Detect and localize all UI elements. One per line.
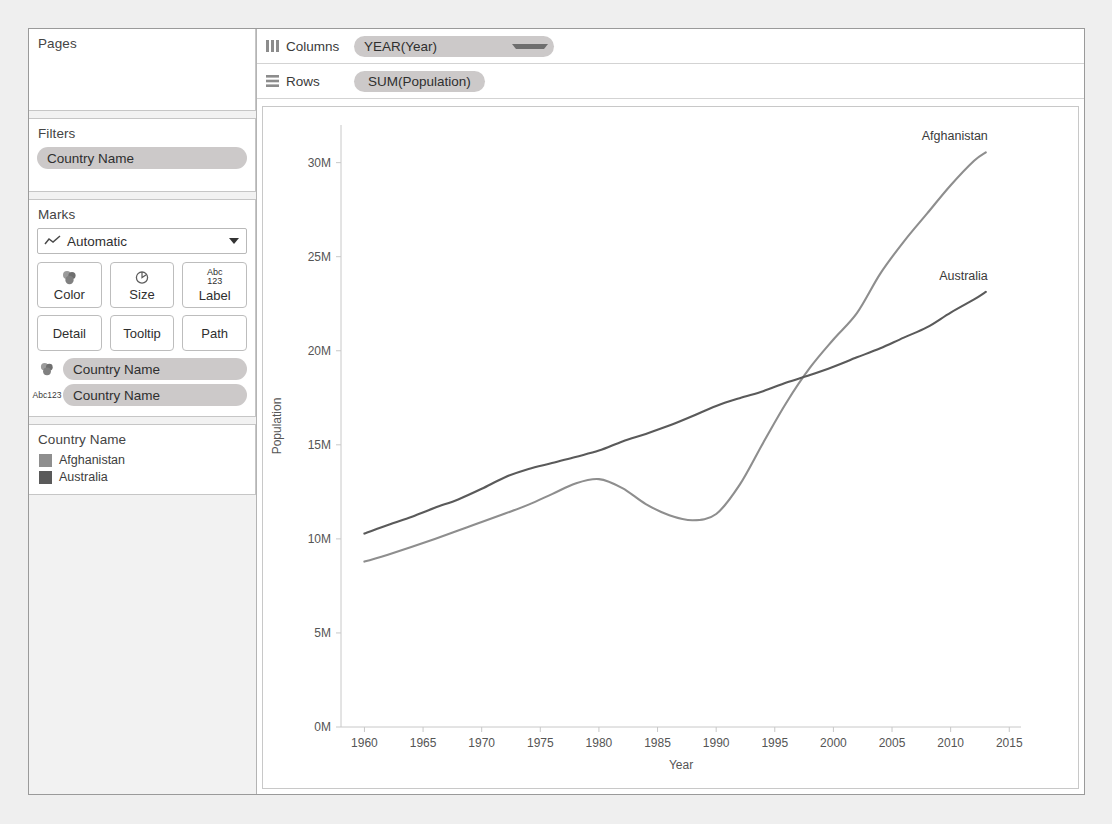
y-tick-label: 0M xyxy=(314,720,331,734)
series-line-australia[interactable] xyxy=(364,292,985,534)
pages-card[interactable]: Pages xyxy=(29,29,256,111)
filter-pill-label: Country Name xyxy=(47,151,134,166)
x-tick-label: 2005 xyxy=(879,736,906,750)
tableau-worksheet: Pages Filters Country Name Marks Automat… xyxy=(28,28,1085,795)
y-tick-label: 15M xyxy=(308,438,331,452)
marks-pill-label-label: Country Name xyxy=(73,388,160,403)
chevron-down-icon[interactable] xyxy=(512,44,548,49)
rows-icon xyxy=(266,75,279,87)
legend-title: Country Name xyxy=(38,432,247,447)
marks-tooltip-label: Tooltip xyxy=(123,326,161,341)
marks-title: Marks xyxy=(38,207,247,222)
color-palette-icon xyxy=(61,269,78,286)
num-text: 123 xyxy=(207,276,222,286)
pages-title: Pages xyxy=(38,36,247,51)
line-chart[interactable]: 0M5M10M15M20M25M30M196019651970197519801… xyxy=(263,107,1079,787)
x-tick-label: 1965 xyxy=(410,736,437,750)
chart-canvas[interactable]: 0M5M10M15M20M25M30M196019651970197519801… xyxy=(262,106,1079,789)
rows-shelf-label-group: Rows xyxy=(266,74,354,89)
abc-123-icon: Abc 123 xyxy=(37,391,57,400)
columns-shelf-label-group: Columns xyxy=(266,39,354,54)
y-tick-label: 25M xyxy=(308,250,331,264)
x-tick-label: 1975 xyxy=(527,736,554,750)
color-legend-card: Country Name Afghanistan Australia xyxy=(29,424,256,495)
x-tick-label: 1970 xyxy=(468,736,495,750)
columns-shelf[interactable]: Columns YEAR(Year) xyxy=(257,29,1084,64)
marks-label-label: Label xyxy=(199,288,231,303)
mark-buttons-row-2: Detail Tooltip Path xyxy=(37,315,247,351)
x-tick-label: 2000 xyxy=(820,736,847,750)
x-tick-label: 1995 xyxy=(761,736,788,750)
legend-item-australia[interactable]: Australia xyxy=(39,470,247,484)
mark-type-label: Automatic xyxy=(67,234,229,249)
legend-item-label: Afghanistan xyxy=(59,453,125,467)
x-axis-title: Year xyxy=(669,758,693,772)
y-tick-label: 30M xyxy=(308,156,331,170)
marks-label-button[interactable]: Abc 123 Label xyxy=(182,262,247,308)
x-tick-label: 1990 xyxy=(703,736,730,750)
columns-pill-label: YEAR(Year) xyxy=(364,39,437,54)
filters-card[interactable]: Filters Country Name xyxy=(29,118,256,192)
marks-color-label: Color xyxy=(54,287,85,302)
y-axis-title: Population xyxy=(270,398,284,455)
legend-swatch xyxy=(39,471,52,484)
abc-123-icon: Abc 123 xyxy=(207,268,223,287)
columns-pill-year[interactable]: YEAR(Year) xyxy=(354,36,554,57)
series-label-australia: Australia xyxy=(939,269,988,283)
marks-size-button[interactable]: Size xyxy=(110,262,175,308)
y-tick-label: 5M xyxy=(314,626,331,640)
x-tick-label: 1985 xyxy=(644,736,671,750)
marks-pill-label-country-name[interactable]: Country Name xyxy=(63,384,247,406)
marks-detail-label: Detail xyxy=(53,326,86,341)
marks-card: Marks Automatic xyxy=(29,199,256,417)
color-palette-icon xyxy=(37,362,57,376)
marks-color-button[interactable]: Color xyxy=(37,262,102,308)
marks-color-pill-row: Country Name xyxy=(37,358,247,380)
abc-text: Abc xyxy=(33,391,48,400)
columns-icon xyxy=(266,40,279,52)
x-tick-label: 2010 xyxy=(937,736,964,750)
series-label-afghanistan: Afghanistan xyxy=(922,129,988,143)
rows-shelf[interactable]: Rows SUM(Population) xyxy=(257,64,1084,99)
marks-path-button[interactable]: Path xyxy=(182,315,247,351)
marks-path-label: Path xyxy=(201,326,228,341)
marks-size-label: Size xyxy=(129,287,154,302)
worksheet-main: Columns YEAR(Year) Rows SUM(Populat xyxy=(257,29,1084,794)
chevron-down-icon[interactable] xyxy=(229,238,239,244)
marks-pill-color-country-name[interactable]: Country Name xyxy=(63,358,247,380)
x-tick-label: 2015 xyxy=(996,736,1023,750)
marks-label-pill-row: Abc 123 Country Name xyxy=(37,384,247,406)
rows-pill-label: SUM(Population) xyxy=(368,74,471,89)
marks-tooltip-button[interactable]: Tooltip xyxy=(110,315,175,351)
line-chart-icon xyxy=(44,235,61,247)
filter-pill-country-name[interactable]: Country Name xyxy=(37,147,247,169)
num-text: 123 xyxy=(47,391,61,400)
y-tick-label: 20M xyxy=(308,344,331,358)
marks-pill-color-label: Country Name xyxy=(73,362,160,377)
legend-swatch xyxy=(39,454,52,467)
marks-detail-button[interactable]: Detail xyxy=(37,315,102,351)
rows-pill-population[interactable]: SUM(Population) xyxy=(354,71,485,92)
filters-title: Filters xyxy=(38,126,247,141)
legend-item-label: Australia xyxy=(59,470,108,484)
rows-label: Rows xyxy=(286,74,320,89)
abc-text: Abc xyxy=(207,267,223,277)
x-tick-label: 1960 xyxy=(351,736,378,750)
columns-label: Columns xyxy=(286,39,339,54)
y-tick-label: 10M xyxy=(308,532,331,546)
left-sidebar: Pages Filters Country Name Marks Automat… xyxy=(29,29,257,794)
x-tick-label: 1980 xyxy=(586,736,613,750)
mark-buttons-row-1: Color Size Abc 123 L xyxy=(37,262,247,308)
size-circle-icon xyxy=(134,269,150,286)
mark-type-dropdown[interactable]: Automatic xyxy=(37,228,247,254)
legend-item-afghanistan[interactable]: Afghanistan xyxy=(39,453,247,467)
